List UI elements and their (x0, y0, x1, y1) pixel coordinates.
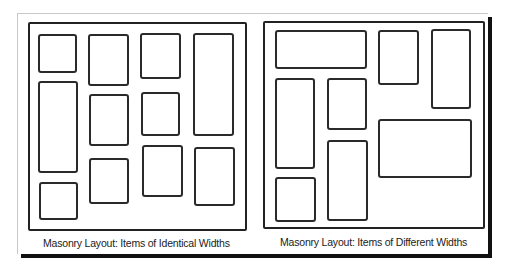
identical-item-c2-r2 (89, 94, 129, 146)
identical-item-c3-r3 (142, 145, 183, 197)
identical-item-c1-r2 (38, 81, 78, 173)
caption-identical-widths: Masonry Layout: Items of Identical Width… (43, 237, 230, 249)
identical-item-c2-r1 (88, 34, 129, 86)
identical-item-c4-r2 (194, 147, 235, 206)
identical-item-c1-r1 (38, 34, 77, 73)
identical-item-c4-r1 (193, 33, 234, 136)
caption-different-widths: Masonry Layout: Items of Different Width… (280, 236, 467, 248)
identical-item-c3-r2 (141, 92, 180, 136)
different-item-top-c4 (431, 29, 471, 109)
identical-item-c2-r3 (89, 158, 129, 204)
different-item-tall-mid (327, 140, 368, 221)
identical-item-c3-r1 (140, 33, 181, 79)
different-item-top-c3 (378, 30, 419, 85)
identical-item-c1-r3 (39, 182, 78, 220)
different-item-mid (327, 78, 367, 130)
different-item-wide-right (378, 119, 472, 178)
different-item-bottom-left (275, 177, 316, 222)
different-item-tall-left (275, 78, 315, 169)
different-item-wide-top (275, 30, 367, 69)
